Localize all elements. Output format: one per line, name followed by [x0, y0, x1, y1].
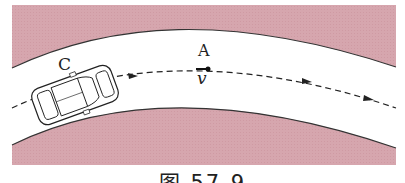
figure-caption: 图 57-9 [0, 166, 405, 183]
label-car-c: C [58, 54, 71, 74]
road-diagram [0, 0, 405, 183]
label-velocity-v: v [197, 68, 207, 88]
label-point-a: A [198, 41, 210, 60]
